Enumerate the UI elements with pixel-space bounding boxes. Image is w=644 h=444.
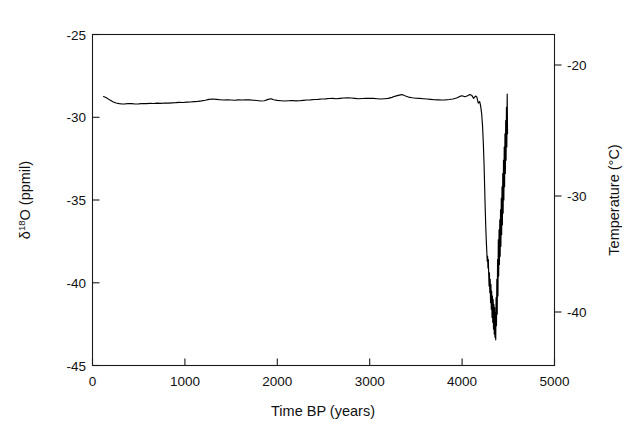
y-axis-title-left: δ18O (ppmil) (16, 161, 33, 239)
y2-ticklabel: -40 (567, 305, 587, 320)
x-axis-title: Time BP (years) (271, 403, 375, 419)
y-axis-title-right: Temperature (°C) (606, 144, 622, 255)
y-ticklabel: -25 (66, 28, 86, 43)
y-ticklabel: -40 (66, 276, 86, 291)
x-ticklabel: 0 (89, 374, 97, 389)
y-ticklabel: -45 (66, 359, 86, 374)
data-series-delta18O (104, 94, 508, 340)
y2-ticklabel: -20 (567, 58, 587, 73)
x-ticklabel: 1000 (170, 374, 200, 389)
x-ticklabel: 3000 (355, 374, 385, 389)
y-axis-ticklabels-right: -20 -30 -40 (567, 58, 587, 320)
y-axis-ticklabels-left: -25 -30 -35 -40 -45 (66, 28, 86, 374)
x-ticklabel: 4000 (447, 374, 477, 389)
chart-svg: -25 -30 -35 -40 -45 -20 -30 -40 (0, 0, 644, 444)
y-ticklabel: -35 (66, 193, 86, 208)
x-ticklabel: 2000 (262, 374, 292, 389)
y2-ticklabel: -30 (567, 189, 587, 204)
chart-figure: -25 -30 -35 -40 -45 -20 -30 -40 (0, 0, 644, 444)
y-axis-title-right-text: Temperature (°C) (606, 144, 622, 255)
x-ticklabel: 5000 (539, 374, 569, 389)
x-axis-ticklabels: 0 1000 2000 3000 4000 5000 (89, 374, 570, 389)
y-axis-title-superscript: 18 (16, 220, 27, 231)
y-axis-ticks-right (555, 65, 562, 312)
y-ticklabel: -30 (66, 110, 86, 125)
y-axis-title-delta: δ (17, 231, 33, 239)
x-axis-ticks (93, 359, 555, 366)
y-axis-title-units: (ppmil) (17, 161, 33, 205)
y-axis-title-element: O (17, 209, 33, 220)
y-axis-ticks-left (93, 35, 100, 366)
svg-text:δ18O (ppmil): δ18O (ppmil) (16, 161, 33, 239)
